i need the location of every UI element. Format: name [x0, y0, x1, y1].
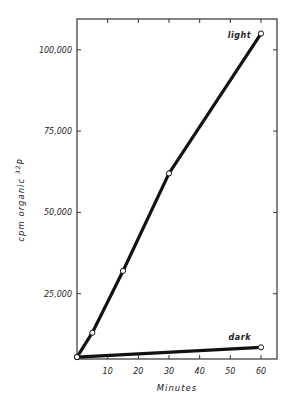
- plot-frame: [77, 19, 277, 359]
- y-tick-label: 100,000: [39, 46, 72, 55]
- x-tick-label: 20: [133, 367, 143, 376]
- x-tick-label: 10: [103, 367, 113, 376]
- line-chart: 10203040506025,00050,00075,000100,000 li…: [0, 0, 295, 405]
- x-tick-label: 40: [195, 367, 205, 376]
- plot-border: [77, 19, 277, 359]
- x-axis-label: Minutes: [157, 383, 197, 393]
- data-series: lightdark: [74, 31, 263, 360]
- y-tick-label: 50,000: [44, 208, 72, 217]
- x-tick-label: 60: [256, 367, 266, 376]
- y-tick-label: 75,000: [44, 127, 72, 136]
- series-label-dark: dark: [229, 333, 252, 342]
- series-label-light: light: [228, 31, 252, 40]
- data-point-marker: [258, 31, 263, 36]
- x-tick-label: 50: [225, 367, 235, 376]
- data-point-marker: [166, 171, 171, 176]
- data-point-marker: [258, 345, 263, 350]
- x-tick-label: 30: [164, 367, 174, 376]
- data-point-marker: [120, 268, 125, 273]
- series-line-light: [77, 34, 261, 358]
- y-axis-label: cpm organic 32P: [14, 158, 26, 241]
- axis-labels: Minutescpm organic 32P: [14, 158, 197, 393]
- data-point-marker: [90, 330, 95, 335]
- y-tick-label: 25,000: [44, 290, 72, 299]
- data-point-marker: [74, 355, 79, 360]
